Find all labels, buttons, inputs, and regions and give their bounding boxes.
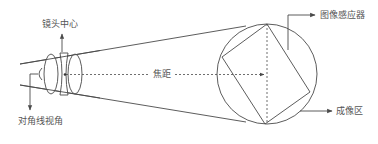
image-sensor-leader [288,15,315,50]
diagonal-fov-label: 对角线视角 [18,116,63,126]
lens-center-point [64,73,67,76]
lens-center-label: 镜头中心 [42,19,78,29]
image-sensor-rect [222,24,310,124]
diagonal-angle-leader [30,74,38,110]
convex-lens-right [68,54,82,94]
imaging-area-label: 成像区 [336,106,363,116]
diagonal-angle-arc [39,68,42,80]
focal-length-label: 焦距 [153,69,171,79]
image-sensor-label: 图像感应器 [320,10,365,20]
